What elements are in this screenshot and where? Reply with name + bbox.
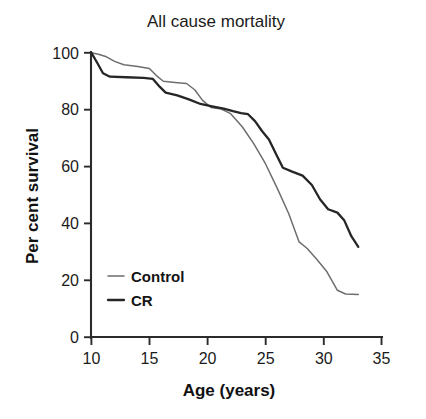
x-tick-label-20: 20 xyxy=(199,350,217,367)
x-tick-label-30: 30 xyxy=(315,350,333,367)
x-axis-tick-labels: 10 15 20 25 30 35 xyxy=(83,350,391,367)
y-tick-label-80: 80 xyxy=(61,101,79,118)
all-cause-mortality-line-chart: All cause mortality 100 80 60 40 20 0 xyxy=(0,0,426,419)
y-axis-tick-labels: 100 80 60 40 20 0 xyxy=(52,45,79,346)
series-line-control xyxy=(91,53,358,295)
x-tick-label-10: 10 xyxy=(83,350,101,367)
y-axis-title: Per cent survival xyxy=(23,128,42,264)
y-tick-label-0: 0 xyxy=(70,329,79,346)
y-tick-label-40: 40 xyxy=(61,215,79,232)
y-tick-label-100: 100 xyxy=(52,45,79,62)
chart-legend: Control CR xyxy=(108,268,184,309)
series-line-cr xyxy=(91,53,358,247)
x-tick-label-35: 35 xyxy=(373,350,391,367)
y-tick-label-60: 60 xyxy=(61,158,79,175)
chart-title: All cause mortality xyxy=(147,12,285,31)
x-axis-title: Age (years) xyxy=(183,381,276,400)
data-series-layer xyxy=(91,53,358,295)
y-tick-label-20: 20 xyxy=(61,272,79,289)
chart-figure: All cause mortality 100 80 60 40 20 0 xyxy=(0,0,426,419)
x-axis-ticks xyxy=(91,337,381,345)
legend-label-control: Control xyxy=(131,268,184,285)
x-tick-label-25: 25 xyxy=(257,350,275,367)
x-tick-label-15: 15 xyxy=(141,350,159,367)
legend-label-cr: CR xyxy=(131,292,153,309)
